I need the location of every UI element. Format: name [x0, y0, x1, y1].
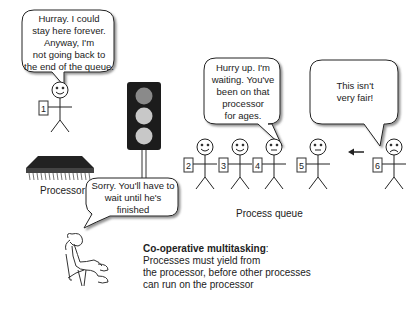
process-figure-1: 1 [39, 82, 72, 132]
process-figure-6: 6 [373, 139, 406, 189]
process-id-card: 5 [297, 158, 306, 172]
process-id-label: 6 [375, 161, 380, 171]
process-id-label: 1 [41, 104, 46, 114]
bubble-text-process-4: Hurry up. I'm waiting. You've been on th… [206, 62, 280, 122]
caption: Co-operative multitasking: Processes mus… [143, 243, 311, 291]
process-id-card: 2 [184, 158, 193, 172]
processor-label: Processor [40, 185, 85, 196]
process-id-label: 5 [299, 161, 304, 171]
process-id-card: 3 [219, 158, 228, 172]
bubble-text-scheduler: Sorry. You'll have to wait until he's fi… [86, 180, 180, 216]
process-id-card: 4 [253, 158, 262, 172]
process-id-card: 6 [373, 158, 382, 172]
process-id-label: 3 [221, 161, 226, 171]
process-queue-label: Process queue [236, 208, 303, 219]
process-figure-4: 4 [253, 139, 286, 189]
caption-heading: Co-operative multitasking [143, 243, 266, 254]
caption-line: Processes must yield from [143, 255, 311, 267]
caption-line: can run on the processor [143, 279, 311, 291]
process-figure-5: 5 [297, 139, 330, 189]
process-figure-2: 2 [184, 139, 217, 189]
process-figure-3: 3 [219, 139, 252, 189]
bubble-text-process-6: This isn't very fair! [312, 80, 398, 104]
process-id-card: 1 [39, 101, 48, 115]
caption-line: the processor, before other processes [143, 267, 311, 279]
process-id-label: 4 [255, 161, 260, 171]
bubble-text-process-1: Hurray. I could stay here forever. Anywa… [24, 13, 114, 73]
process-id-label: 2 [186, 161, 191, 171]
